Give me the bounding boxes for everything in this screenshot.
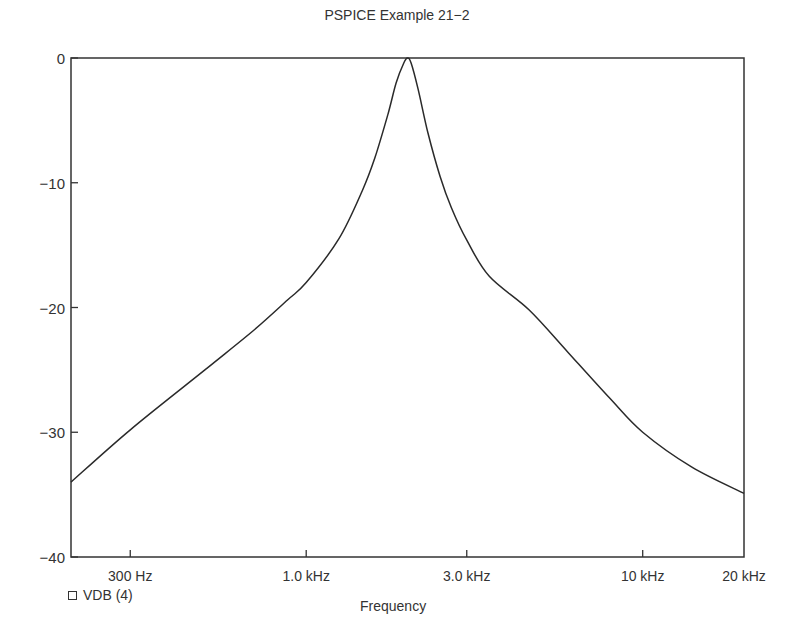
- y-axis-ticks: 0−10−20−30−40: [40, 50, 78, 566]
- plot-border: [71, 58, 744, 557]
- y-tick-label: −10: [40, 175, 65, 192]
- x-tick-label: 20 kHz: [722, 568, 766, 584]
- series-line-vdb4: [71, 58, 744, 493]
- square-marker-icon: [68, 591, 77, 600]
- x-axis-ticks: 300 Hz1.0 kHz3.0 kHz10 kHz20 kHz: [108, 550, 766, 584]
- y-tick-label: 0: [57, 50, 65, 67]
- y-tick-label: −20: [40, 300, 65, 317]
- x-tick-label: 1.0 kHz: [282, 568, 329, 584]
- legend: VDB (4): [68, 587, 133, 603]
- x-tick-label: 300 Hz: [108, 568, 152, 584]
- x-tick-label: 3.0 kHz: [443, 568, 490, 584]
- y-tick-label: −40: [40, 549, 65, 566]
- plot-area: 0−10−20−30−40 300 Hz1.0 kHz3.0 kHz10 kHz…: [0, 0, 794, 643]
- legend-label: VDB (4): [83, 587, 133, 603]
- y-tick-label: −30: [40, 424, 65, 441]
- x-tick-label: 10 kHz: [621, 568, 665, 584]
- x-axis-label: Frequency: [360, 598, 426, 614]
- axes-frame: [71, 58, 744, 557]
